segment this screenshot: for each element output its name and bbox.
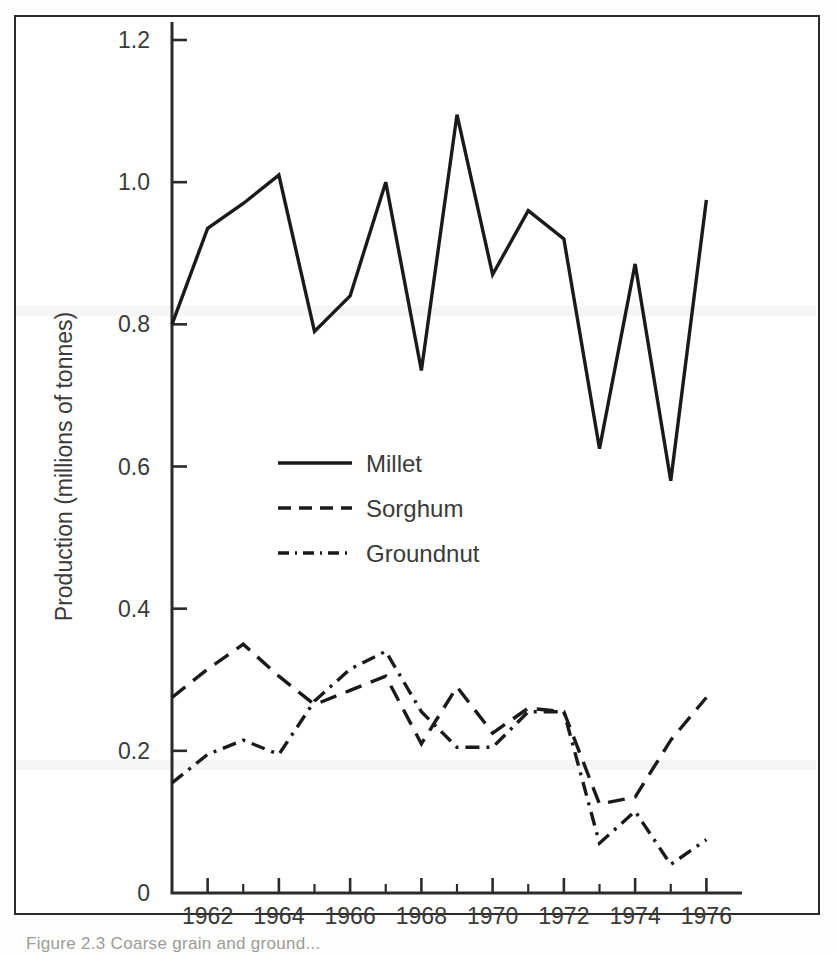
x-axis-tick-label: 1972 [538,903,589,929]
y-axis-tick-label: 0.2 [118,738,150,764]
figure-root: 00.20.40.60.81.01.2196219641966196819701… [0,0,836,954]
y-axis-tick-label: 0.4 [118,596,150,622]
series-line-groundnut [172,651,706,864]
line-chart: 00.20.40.60.81.01.2196219641966196819701… [0,0,836,954]
figure-caption: Figure 2.3 Coarse grain and ground... [26,934,726,952]
y-axis-tick-label: 0 [137,880,150,906]
y-axis-tick-label: 0.6 [118,454,150,480]
x-axis-tick-label: 1974 [610,903,661,929]
series-line-millet [172,115,706,481]
x-axis-tick-label: 1970 [467,903,518,929]
series-line-sorghum [172,644,706,804]
x-axis-tick-label: 1976 [681,903,732,929]
y-axis-title: Production (millions of tonnes) [51,312,77,621]
y-axis-tick-label: 1.2 [118,27,150,53]
legend-label-groundnut: Groundnut [366,540,480,567]
y-axis-tick-label: 1.0 [118,169,150,195]
legend-label-millet: Millet [366,450,422,477]
y-axis-tick-label: 0.8 [118,311,150,337]
x-axis-tick-label: 1962 [182,903,233,929]
legend-label-sorghum: Sorghum [366,495,463,522]
x-axis-tick-label: 1966 [325,903,376,929]
x-axis-tick-label: 1964 [253,903,304,929]
x-axis-tick-label: 1968 [396,903,447,929]
